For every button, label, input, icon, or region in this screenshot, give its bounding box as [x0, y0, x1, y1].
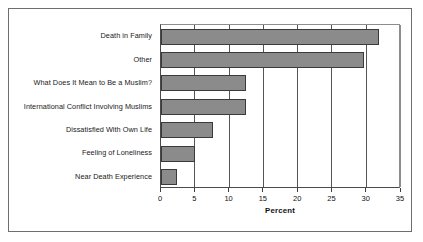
tick-mark	[262, 188, 263, 192]
category-label: Death in Family	[0, 31, 152, 40]
category-label: What Does It Mean to Be a Muslim?	[0, 78, 152, 87]
bar	[161, 52, 364, 68]
x-tick-label: 25	[316, 194, 346, 203]
bar-row	[161, 119, 399, 142]
tick-mark	[297, 188, 298, 192]
category-label: Feeling of Loneliness	[0, 148, 152, 157]
tick-mark	[331, 188, 332, 192]
x-tick-label: 5	[179, 194, 209, 203]
category-label: Other	[0, 55, 152, 64]
tick-mark	[400, 188, 401, 192]
x-tick-label: 20	[282, 194, 312, 203]
bar	[161, 75, 246, 91]
bar	[161, 29, 379, 45]
x-tick-label: 0	[145, 194, 175, 203]
plot-area	[160, 24, 400, 188]
bar-row	[161, 72, 399, 95]
category-label: Dissatisfied With Own Life	[0, 125, 152, 134]
tick-mark	[194, 188, 195, 192]
bar-series	[161, 25, 399, 187]
tick-mark	[160, 188, 161, 192]
bar-row	[161, 166, 399, 189]
bar	[161, 99, 246, 115]
gridline	[400, 25, 401, 187]
x-tick-label: 30	[351, 194, 381, 203]
bar-row	[161, 142, 399, 165]
bar	[161, 169, 177, 185]
tick-mark	[365, 188, 366, 192]
chart-figure: Death in FamilyOtherWhat Does It Mean to…	[0, 0, 423, 242]
category-label: Near Death Experience	[0, 172, 152, 181]
bar-row	[161, 48, 399, 71]
bar	[161, 122, 213, 138]
category-label: International Conflict Involving Muslims	[0, 102, 152, 111]
bar-row	[161, 95, 399, 118]
bar-row	[161, 25, 399, 48]
x-tick-label: 10	[214, 194, 244, 203]
bar	[161, 146, 195, 162]
tick-mark	[228, 188, 229, 192]
x-tick-label: 15	[248, 194, 278, 203]
x-tick-label: 35	[385, 194, 415, 203]
x-axis-title: Percent	[160, 206, 400, 215]
